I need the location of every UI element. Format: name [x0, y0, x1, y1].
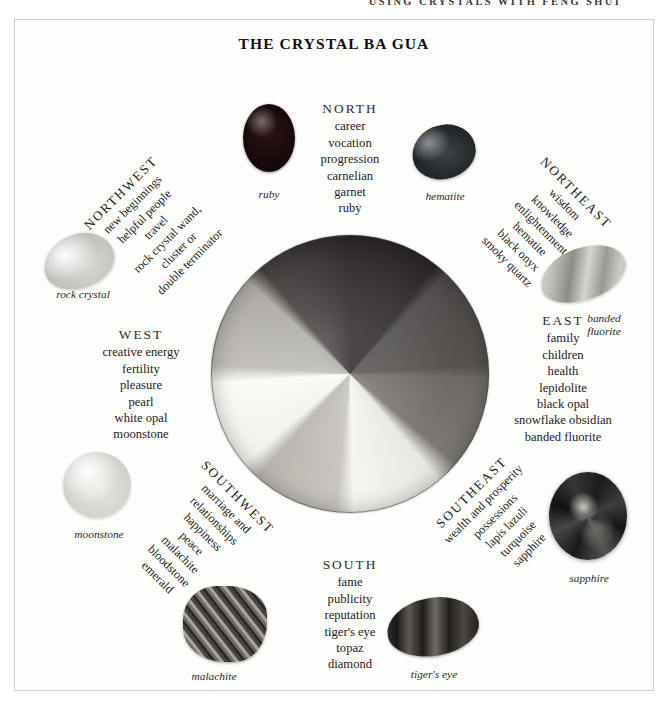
stone-caption-hematite: hematite: [409, 190, 481, 203]
page-title: THE CRYSTAL BA GUA: [15, 35, 653, 53]
sector-west-keyword: white opal: [67, 410, 215, 426]
stone-caption-rock-crystal: rock crystal: [35, 288, 131, 301]
sector-west: WEST creative energy fertility pleasure …: [67, 326, 215, 443]
sector-west-keyword: pleasure: [67, 377, 215, 393]
sector-north-keyword: progression: [284, 151, 416, 167]
stone-caption-moonstone: moonstone: [51, 528, 147, 541]
stone-caption-ruby: ruby: [234, 188, 304, 201]
stone-caption-tigers-eye: tiger's eye: [389, 668, 479, 681]
sector-west-keyword: creative energy: [67, 344, 215, 360]
sector-east-keyword: snowflake obsidian: [485, 412, 641, 428]
sector-west-keyword: fertility: [67, 361, 215, 377]
sector-east-keyword: children: [485, 347, 641, 363]
sector-west-direction: WEST: [67, 326, 215, 343]
sector-west-keyword: pearl: [67, 394, 215, 410]
sector-north-keyword: ruby: [284, 200, 416, 216]
stone-photo-ruby: [243, 104, 295, 172]
crystal-ba-gua-plate: THE CRYSTAL BA GUA NORTH career vocation…: [14, 19, 654, 691]
sector-north-keyword: carnelian: [284, 168, 416, 184]
sector-north-direction: NORTH: [284, 100, 416, 117]
sector-south-keyword: publicity: [283, 591, 417, 607]
sector-east-keyword: health: [485, 363, 641, 379]
sector-west-keyword: moonstone: [67, 426, 215, 442]
sector-south-keyword: fame: [283, 574, 417, 590]
stone-caption-sapphire: sapphire: [549, 572, 629, 585]
sector-east-keyword: black opal: [485, 396, 641, 412]
sector-north-keyword: vocation: [284, 135, 416, 151]
stone-caption-malachite: malachite: [167, 670, 261, 683]
sector-east-keyword: lepidolite: [485, 380, 641, 396]
sector-north-keyword: career: [284, 118, 416, 134]
stone-photo-malachite: [183, 586, 267, 662]
ba-gua-wheel: [211, 235, 489, 513]
stone-photo-moonstone: [63, 452, 131, 518]
stone-photo-sapphire: [549, 472, 627, 560]
stone-caption-banded-fluorite: banded fluorite: [569, 312, 639, 339]
running-head: USING CRYSTALS WITH FENG SHUI: [330, 0, 660, 8]
